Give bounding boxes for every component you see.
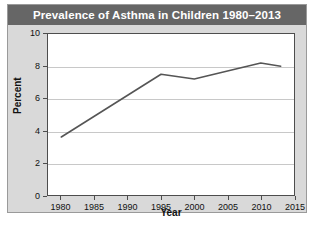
x-axis-title: Year bbox=[47, 207, 295, 218]
y-tick-mark-0 bbox=[43, 196, 47, 197]
page-title: Prevalence of Asthma in Children 1980–20… bbox=[33, 9, 281, 21]
y-tick-label-6: 6 bbox=[14, 93, 40, 103]
y-tick-mark-10 bbox=[43, 33, 47, 34]
x-tick-mark-1985 bbox=[94, 196, 95, 200]
x-tick-mark-2000 bbox=[194, 196, 195, 200]
x-tick-mark-1990 bbox=[127, 196, 128, 200]
chart-title-band: Prevalence of Asthma in Children 1980–20… bbox=[8, 5, 306, 25]
x-tick-mark-2010 bbox=[261, 196, 262, 200]
y-tick-label-0: 0 bbox=[14, 191, 40, 201]
y-tick-label-8: 8 bbox=[14, 61, 40, 71]
asthma-prevalence-line bbox=[61, 63, 280, 137]
y-tick-mark-8 bbox=[43, 66, 47, 67]
plot-area bbox=[47, 33, 295, 196]
x-tick-mark-1995 bbox=[161, 196, 162, 200]
y-tick-label-2: 2 bbox=[14, 158, 40, 168]
data-line-series bbox=[48, 34, 294, 195]
y-tick-mark-2 bbox=[43, 163, 47, 164]
x-tick-mark-2005 bbox=[228, 196, 229, 200]
y-tick-label-4: 4 bbox=[14, 126, 40, 136]
chart-figure: Prevalence of Asthma in Children 1980–20… bbox=[0, 0, 314, 237]
y-tick-mark-6 bbox=[43, 98, 47, 99]
x-tick-mark-1980 bbox=[60, 196, 61, 200]
x-tick-mark-2015 bbox=[295, 196, 296, 200]
y-tick-mark-4 bbox=[43, 131, 47, 132]
y-tick-label-10: 10 bbox=[14, 28, 40, 38]
